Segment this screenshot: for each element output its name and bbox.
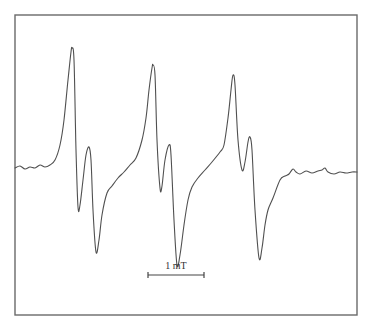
spectrum-trace	[15, 47, 357, 267]
scale-bar: 1 mT	[148, 260, 204, 278]
spectrum-chart: 1 mT	[0, 0, 370, 326]
scale-bar-label: 1 mT	[165, 260, 186, 271]
